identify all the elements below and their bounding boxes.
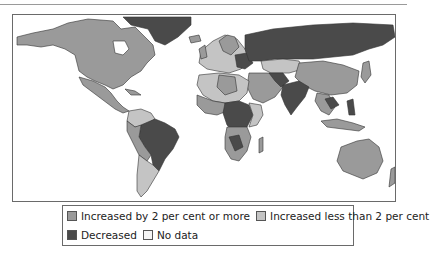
map-legend: Increased by 2 per cent or more Increase…	[62, 205, 354, 246]
world-map-svg	[13, 15, 395, 201]
world-map	[12, 14, 396, 202]
region-india	[281, 81, 309, 115]
legend-item-increased-2-plus: Increased by 2 per cent or more	[67, 210, 250, 222]
legend-label: No data	[157, 229, 198, 241]
legend-label: Decreased	[81, 229, 137, 241]
legend-row-1: Increased by 2 per cent or more Increase…	[67, 210, 434, 222]
region-indonesia	[321, 119, 365, 131]
region-australia	[337, 139, 383, 179]
legend-swatch-increased-2-plus	[67, 211, 77, 221]
legend-row-2: Decreased No data	[67, 229, 204, 241]
legend-swatch-increased-less-2	[256, 211, 266, 221]
top-rule	[0, 4, 407, 5]
region-russia	[245, 23, 395, 61]
legend-swatch-decreased	[67, 230, 77, 240]
legend-swatch-no-data	[143, 230, 153, 240]
region-north-america	[17, 19, 155, 89]
legend-item-decreased: Decreased	[67, 229, 137, 241]
legend-label: Increased by 2 per cent or more	[81, 210, 250, 222]
legend-label: Increased less than 2 per cent	[270, 210, 429, 222]
legend-item-no-data: No data	[143, 229, 198, 241]
legend-item-increased-less-2: Increased less than 2 per cent	[256, 210, 429, 222]
